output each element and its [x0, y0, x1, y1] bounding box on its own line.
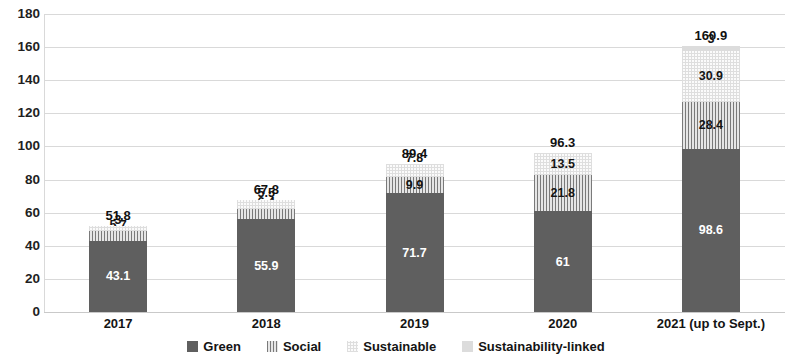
plot-area: 43.15.7351.855.96.45.567.871.79.97.889.4…	[44, 14, 785, 312]
x-axis-tick-label: 2018	[192, 317, 340, 330]
segment-value-label: 21.8	[534, 187, 592, 200]
y-axis-tick-label: 100	[0, 140, 40, 154]
y-axis-tick-label: 120	[0, 107, 40, 121]
y-axis-tick-label: 60	[0, 206, 40, 220]
bar-segment-sustainable[interactable]: 30.9	[682, 51, 740, 102]
stacked-bar-chart: 020406080100120140160180 43.15.7351.855.…	[0, 0, 792, 358]
x-axis: 20172018201920202021 (up to Sept.)	[44, 315, 785, 335]
x-axis-tick-label: 2017	[44, 317, 192, 330]
bar-total-label: 160.9	[682, 29, 740, 42]
legend-label: Sustainable	[363, 339, 436, 354]
gridline	[44, 312, 785, 313]
segment-value-label: 13.5	[534, 158, 592, 171]
bar-segment-green[interactable]: 55.9	[237, 219, 295, 312]
legend-label: Green	[203, 339, 241, 354]
bar-total-label: 67.8	[237, 183, 295, 196]
segment-value-label: 9.9	[386, 179, 444, 192]
legend-label: Social	[283, 339, 321, 354]
chart-legend: GreenSocialSustainableSustainability-lin…	[0, 336, 792, 356]
social-swatch	[267, 341, 278, 352]
legend-item-sustainable[interactable]: Sustainable	[347, 339, 436, 354]
y-axis-tick-label: 0	[0, 305, 40, 319]
sustainability-linked-swatch	[462, 341, 473, 352]
bar-segment-social[interactable]: 21.8	[534, 175, 592, 211]
legend-label: Sustainability-linked	[478, 339, 604, 354]
bar-total-label: 89.4	[386, 147, 444, 160]
y-axis-tick-label: 180	[0, 7, 40, 21]
green-swatch	[187, 341, 198, 352]
x-axis-tick-label: 2021 (up to Sept.)	[637, 317, 785, 330]
sustainable-swatch	[347, 341, 358, 352]
bar-segment-social[interactable]: 9.9	[386, 177, 444, 193]
legend-item-green[interactable]: Green	[187, 339, 241, 354]
segment-value-label: 71.7	[386, 246, 444, 259]
x-axis-tick-label: 2019	[340, 317, 488, 330]
bar-segment-sustainable[interactable]: 3	[89, 226, 147, 231]
legend-item-sustainability-linked[interactable]: Sustainability-linked	[462, 339, 604, 354]
bar-segment-green[interactable]: 43.1	[89, 241, 147, 312]
bar-segment-green[interactable]: 98.6	[682, 149, 740, 312]
bar-total-label: 51.8	[89, 209, 147, 222]
y-axis-tick-label: 20	[0, 272, 40, 286]
segment-value-label: 98.6	[682, 224, 740, 237]
bar-segment-sustainability-linked[interactable]: 3	[682, 46, 740, 51]
bar-segment-green[interactable]: 61	[534, 211, 592, 312]
y-axis-tick-label: 140	[0, 73, 40, 87]
y-axis: 020406080100120140160180	[0, 14, 40, 312]
x-axis-tick-label: 2020	[489, 317, 637, 330]
bar-segment-social[interactable]: 5.7	[89, 231, 147, 240]
bar-segment-sustainable[interactable]: 7.8	[386, 164, 444, 177]
bar-segment-social[interactable]: 28.4	[682, 102, 740, 149]
segment-value-label: 55.9	[237, 259, 295, 272]
bar-segment-green[interactable]: 71.7	[386, 193, 444, 312]
y-axis-tick-label: 80	[0, 173, 40, 187]
segment-value-label: 43.1	[89, 270, 147, 283]
bar-segment-sustainable[interactable]: 13.5	[534, 153, 592, 175]
bar-segment-social[interactable]: 6.4	[237, 209, 295, 220]
y-axis-tick-label: 40	[0, 239, 40, 253]
segment-value-label: 61	[534, 255, 592, 268]
bar-segment-sustainable[interactable]: 5.5	[237, 200, 295, 209]
segment-value-label: 28.4	[682, 119, 740, 132]
segment-value-label: 30.9	[682, 70, 740, 83]
legend-item-social[interactable]: Social	[267, 339, 321, 354]
bar-group: 43.15.7351.855.96.45.567.871.79.97.889.4…	[44, 14, 785, 312]
bar-total-label: 96.3	[534, 136, 592, 149]
y-axis-tick-label: 160	[0, 40, 40, 54]
